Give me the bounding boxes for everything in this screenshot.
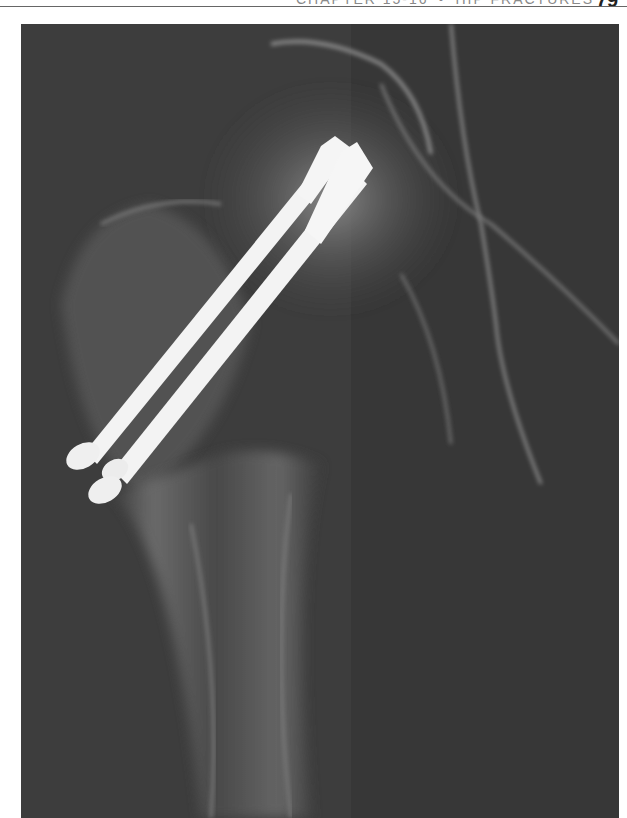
header-rule [0, 6, 627, 7]
xray-figure [21, 24, 619, 818]
xray-image [21, 24, 619, 818]
